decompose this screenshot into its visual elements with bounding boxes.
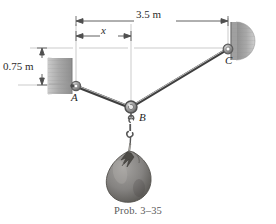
hook-assembly [127, 113, 134, 144]
figure-caption: Prob. 3–35 [0, 205, 276, 216]
point-label-c: C [225, 55, 232, 66]
dimension-label-partial-span: x [101, 25, 106, 36]
cable-ab [78, 86, 129, 107]
point-label-b: B [139, 112, 146, 123]
point-label-a: A [71, 92, 78, 103]
dimension-vertical-offset [37, 48, 47, 85]
dimension-label-total-span: 3.5 m [136, 9, 161, 20]
left-wall-support [48, 58, 72, 94]
cable-bc [133, 49, 226, 106]
ring-c [223, 44, 233, 54]
hanging-sack [106, 151, 151, 202]
ring-a [71, 81, 81, 90]
figure-drawing [0, 0, 276, 224]
dimension-label-vertical-offset: 0.75 m [3, 61, 34, 72]
problem-figure: 3.5 m x 0.75 m A B C Prob. 3–35 [0, 0, 276, 224]
ring-b [125, 101, 137, 113]
